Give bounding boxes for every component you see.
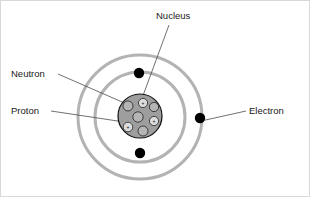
- label-electron: Electron: [249, 105, 284, 116]
- neutron-3: [133, 112, 143, 122]
- nucleus-leader: [141, 25, 169, 101]
- nucleus-group: +++: [118, 94, 162, 138]
- electron-top: [134, 68, 144, 78]
- proton-1-charge-sign: +: [142, 100, 145, 106]
- electron-bottom: [135, 148, 145, 158]
- electron-leader: [201, 111, 246, 121]
- neutron-2: [149, 102, 158, 111]
- atom-diagram-svg: +++ NucleusNeutronProtonElectron: [1, 1, 310, 197]
- electron-right: [195, 113, 205, 123]
- atom-diagram-canvas: +++ NucleusNeutronProtonElectron: [0, 0, 310, 197]
- label-neutron: Neutron: [11, 68, 45, 79]
- label-proton: Proton: [11, 105, 39, 116]
- proton-2-charge-sign: +: [153, 118, 156, 124]
- neutron-4: [138, 126, 148, 136]
- neutron-1: [123, 101, 133, 111]
- label-nucleus: Nucleus: [156, 10, 191, 21]
- proton-3-charge-sign: +: [127, 124, 130, 130]
